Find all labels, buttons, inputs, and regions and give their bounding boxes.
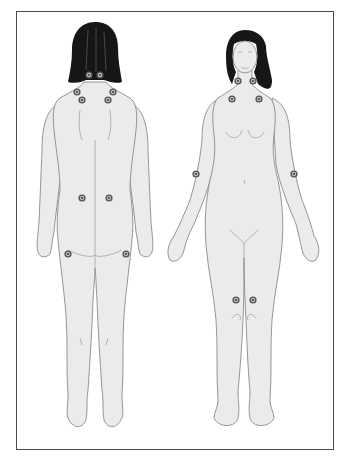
tender-point-supraspinatus-left bbox=[78, 96, 85, 103]
tender-point-gluteal-left bbox=[78, 194, 85, 201]
tender-point-second-rib-left bbox=[228, 95, 235, 102]
tender-point-trochanter-left bbox=[64, 250, 71, 257]
tender-point-knee-right bbox=[249, 296, 256, 303]
tender-point-gluteal-right bbox=[105, 194, 112, 201]
tender-point-second-rib-right bbox=[255, 95, 262, 102]
tender-point-lateral-epicondyle-left bbox=[192, 170, 199, 177]
tender-point-supraspinatus-right bbox=[104, 96, 111, 103]
body-illustration bbox=[0, 0, 352, 462]
tender-point-trochanter-right bbox=[122, 250, 129, 257]
tender-point-knee-left bbox=[232, 296, 239, 303]
front-view-figure bbox=[168, 30, 319, 426]
tender-point-low-cervical-right bbox=[249, 77, 256, 84]
tender-point-trapezius-right bbox=[109, 88, 116, 95]
hair-back bbox=[68, 22, 122, 83]
tender-point-occiput-left bbox=[85, 71, 92, 78]
tender-point-low-cervical-left bbox=[234, 77, 241, 84]
tender-point-lateral-epicondyle-right bbox=[290, 170, 297, 177]
tender-point-trapezius-left bbox=[73, 88, 80, 95]
tender-point-occiput-right bbox=[96, 71, 103, 78]
face bbox=[233, 41, 257, 73]
back-view-figure bbox=[37, 22, 153, 427]
